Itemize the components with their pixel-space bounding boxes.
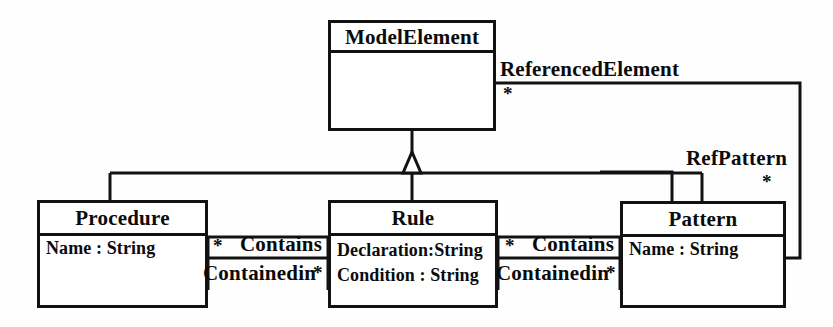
association-ref-pattern <box>600 172 672 201</box>
class-box-rule[interactable]: Rule Declaration:String Condition : Stri… <box>328 200 498 308</box>
generalization-triangle-icon <box>403 152 421 173</box>
class-name-procedure: Procedure <box>40 203 205 236</box>
ref-pattern-path <box>600 172 672 201</box>
association-multiplicity-referenced-element: * <box>503 84 513 103</box>
association-multiplicity-procedure-containedin: * <box>313 263 323 282</box>
association-multiplicity-ref-pattern: * <box>762 172 772 191</box>
uml-class-diagram: ModelElement Procedure Name : String Rul… <box>0 0 833 327</box>
association-multiplicity-rule-contains: * <box>505 236 515 255</box>
class-attributes-pattern: Name : String <box>623 237 783 260</box>
class-name-rule: Rule <box>331 203 495 236</box>
association-label-procedure-containedin: Containedin <box>203 261 316 286</box>
class-attribute: Name : String <box>629 239 783 260</box>
class-attribute: Name : String <box>46 238 205 259</box>
class-attributes-rule: Declaration:String Condition : String <box>331 236 495 288</box>
class-box-pattern[interactable]: Pattern Name : String <box>620 201 786 308</box>
class-name-modelelement: ModelElement <box>331 23 493 53</box>
class-attribute: Declaration:String <box>337 238 495 263</box>
class-box-procedure[interactable]: Procedure Name : String <box>37 200 208 308</box>
association-multiplicity-procedure-contains: * <box>213 236 223 255</box>
association-label-ref-pattern: RefPattern <box>686 146 787 171</box>
class-name-pattern: Pattern <box>623 204 783 237</box>
association-label-referenced-element: ReferencedElement <box>500 57 679 82</box>
class-attributes-procedure: Name : String <box>40 236 205 259</box>
association-label-rule-contains: Contains <box>532 232 614 257</box>
class-attributes-modelelement <box>331 53 493 55</box>
class-box-modelelement[interactable]: ModelElement <box>328 20 496 131</box>
association-label-rule-containedin: Containedin <box>496 261 609 286</box>
class-attribute: Condition : String <box>337 263 495 288</box>
association-multiplicity-rule-containedin: * <box>606 263 616 282</box>
association-label-procedure-contains: Contains <box>240 232 322 257</box>
